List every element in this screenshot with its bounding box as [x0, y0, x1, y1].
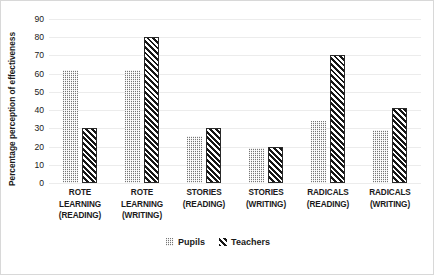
y-axis-tick-label: 30 — [34, 123, 44, 133]
x-axis-category-line: ROTE — [111, 187, 173, 199]
bar-teachers[interactable] — [82, 128, 97, 183]
bar-pupils[interactable] — [249, 148, 264, 183]
x-axis-category-line: (WRITING) — [111, 210, 173, 222]
chart-legend: PupilsTeachers — [1, 237, 434, 247]
y-axis-tick-label: 50 — [34, 87, 44, 97]
x-axis-category-line: STORIES — [235, 187, 297, 199]
y-axis-tick-label: 70 — [34, 50, 44, 60]
x-axis-category-line: ROTE — [49, 187, 111, 199]
bar-teachers[interactable] — [268, 147, 283, 183]
plot-area: 9080706050403020100 — [49, 19, 421, 183]
bar-group — [297, 19, 359, 183]
x-axis-category-line: (READING) — [297, 199, 359, 211]
x-axis-category-label: ROTELEARNING(WRITING) — [111, 187, 173, 231]
bar-teachers[interactable] — [206, 128, 221, 183]
bars-layer — [49, 19, 421, 183]
bar-pupils[interactable] — [373, 130, 388, 183]
x-axis-category-line: (READING) — [173, 199, 235, 211]
legend-item-label: Teachers — [231, 237, 270, 247]
legend-swatch-icon — [166, 238, 174, 246]
y-axis-tick-label: 0 — [39, 178, 44, 188]
bar-group — [111, 19, 173, 183]
x-axis-category-line: STORIES — [173, 187, 235, 199]
bar-group — [173, 19, 235, 183]
y-axis-tick-label: 90 — [34, 14, 44, 24]
x-axis-category-label: ROTELEARNING(READING) — [49, 187, 111, 231]
x-axis-category-label: RADICALS(WRITING) — [359, 187, 421, 231]
y-axis-tick-label: 60 — [34, 69, 44, 79]
y-axis-title: Percentage perception of effectiveness — [1, 1, 23, 216]
bar-chart: Percentage perception of effectiveness 9… — [0, 0, 434, 275]
bar-group — [359, 19, 421, 183]
y-axis-tick-label: 40 — [34, 105, 44, 115]
legend-item-label: Pupils — [178, 237, 205, 247]
x-axis-category-line: LEARNING — [49, 199, 111, 211]
bar-pupils[interactable] — [63, 70, 78, 183]
legend-item-teachers[interactable]: Teachers — [219, 237, 270, 247]
bar-pupils[interactable] — [311, 121, 326, 183]
legend-item-pupils[interactable]: Pupils — [166, 237, 205, 247]
x-axis-category-line: (READING) — [49, 210, 111, 222]
x-axis-category-line: LEARNING — [111, 199, 173, 211]
x-axis-category-label: RADICALS(READING) — [297, 187, 359, 231]
y-axis-tick-label: 20 — [34, 142, 44, 152]
bar-group — [49, 19, 111, 183]
bar-pupils[interactable] — [187, 136, 202, 183]
y-axis-title-label: Percentage perception of effectiveness — [7, 31, 17, 185]
x-axis-category-labels: ROTELEARNING(READING)ROTELEARNING(WRITIN… — [49, 187, 421, 231]
x-axis-category-line: (WRITING) — [235, 199, 297, 211]
bar-pupils[interactable] — [125, 70, 140, 183]
x-axis-category-line: RADICALS — [297, 187, 359, 199]
gridline: 0 — [49, 183, 421, 184]
bar-teachers[interactable] — [392, 108, 407, 183]
x-axis-category-label: STORIES(READING) — [173, 187, 235, 231]
bar-teachers[interactable] — [144, 37, 159, 183]
x-axis-category-line: (WRITING) — [359, 199, 421, 211]
legend-swatch-icon — [219, 238, 227, 246]
x-axis-category-label: STORIES(WRITING) — [235, 187, 297, 231]
bar-group — [235, 19, 297, 183]
bar-teachers[interactable] — [330, 55, 345, 183]
y-axis-tick-label: 10 — [34, 160, 44, 170]
y-axis-tick-label: 80 — [34, 32, 44, 42]
x-axis-category-line: RADICALS — [359, 187, 421, 199]
